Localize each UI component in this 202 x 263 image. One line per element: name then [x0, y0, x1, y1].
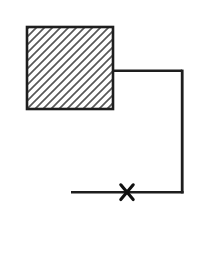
figure-page — [0, 0, 202, 263]
block-and-line-diagram — [0, 0, 202, 263]
hatched-block — [27, 27, 113, 109]
